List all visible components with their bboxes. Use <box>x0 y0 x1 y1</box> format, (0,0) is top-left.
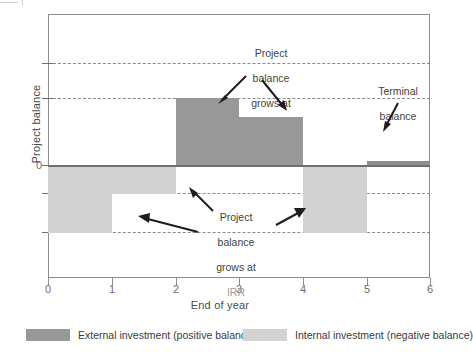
legend-swatch-external <box>26 329 70 341</box>
annotation-marr-accent: MARR <box>232 122 310 135</box>
annotation-irr-line3: grows at <box>197 261 275 274</box>
legend-swatch-internal <box>243 329 287 341</box>
annotation-irr-line2: balance <box>197 236 275 249</box>
arrow-marr-right <box>258 78 298 118</box>
legend-item-external: External investment (positive balance) <box>26 329 255 341</box>
arrow-marr-left <box>210 72 250 107</box>
scan-artifact <box>22 0 23 6</box>
bar-year-1-2 <box>112 166 176 194</box>
zero-axis-line <box>48 165 430 167</box>
y-axis-label: Project balance <box>30 54 42 194</box>
annotation-irr-accent: IRR <box>197 286 275 299</box>
chart-legend: External investment (positive balance) I… <box>0 327 440 349</box>
scan-artifact <box>0 2 18 3</box>
x-tick-label-4: 4 <box>293 283 313 295</box>
annotation-terminal-line1: Terminal <box>360 85 436 98</box>
legend-label-external: External investment (positive balance) <box>78 329 255 341</box>
y-tick-2 <box>42 63 53 64</box>
y-tick-1 <box>42 98 53 99</box>
x-tick-label-0: 0 <box>38 283 58 295</box>
arrow-irr-long-left <box>126 210 202 236</box>
bar-year-2-3 <box>176 98 239 166</box>
x-tick-label-2: 2 <box>166 283 186 295</box>
legend-label-internal: Internal investment (negative balance) <box>295 329 473 341</box>
arrow-irr-upright <box>272 203 314 229</box>
legend-item-internal: Internal investment (negative balance) <box>243 329 473 341</box>
bar-year-0-1 <box>48 166 112 233</box>
x-tick-label-5: 5 <box>357 283 377 295</box>
annotation-marr-line1: Project <box>232 47 310 60</box>
x-tick-label-6: 6 <box>420 283 440 295</box>
arrow-terminal <box>376 100 408 138</box>
x-tick-label-1: 1 <box>102 283 122 295</box>
